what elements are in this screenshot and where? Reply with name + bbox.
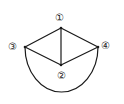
- edge-4-2: [61, 47, 98, 65]
- node-2-dot: [60, 64, 63, 67]
- edge-1-3: [25, 28, 61, 47]
- node-label-1: ①: [53, 13, 65, 25]
- node-label-2: ②: [55, 71, 67, 83]
- node-1-dot: [60, 27, 63, 30]
- edge-1-4: [61, 28, 98, 47]
- graph-diagram: ① ② ③ ④: [0, 0, 124, 104]
- node-label-4: ④: [99, 41, 111, 53]
- node-label-3: ③: [6, 42, 18, 54]
- edge-3-2: [25, 47, 61, 65]
- node-3-dot: [24, 46, 27, 49]
